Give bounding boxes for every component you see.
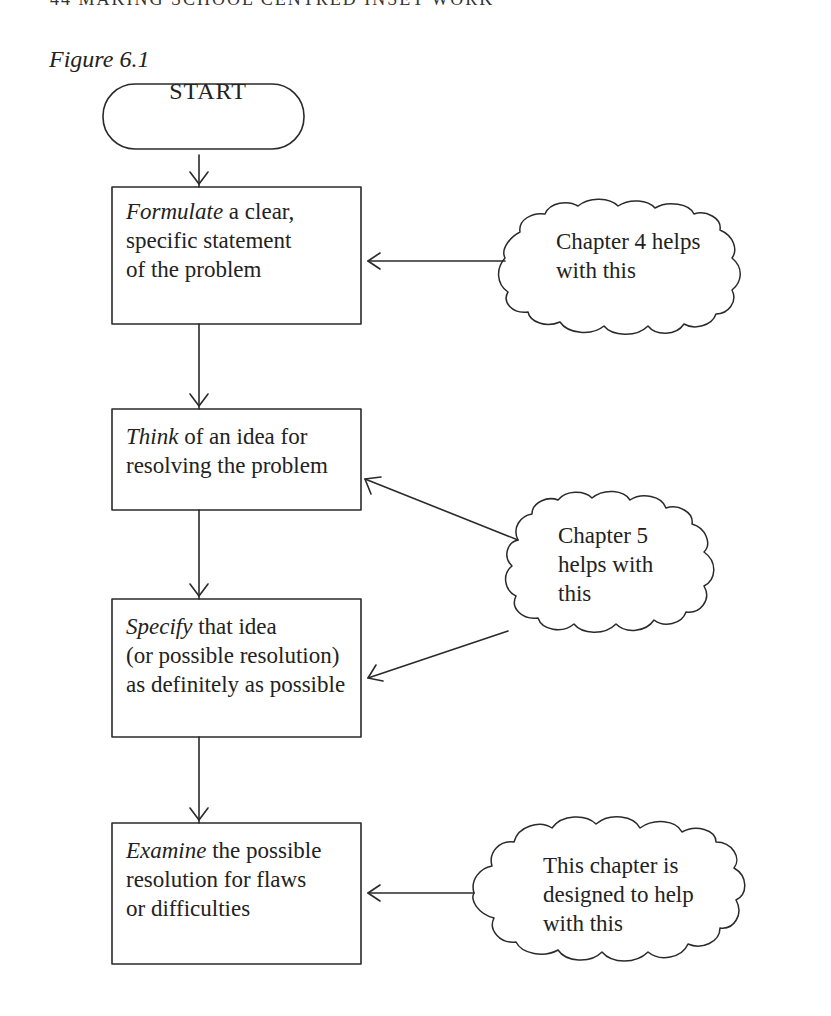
note1-arrow (368, 253, 505, 269)
flow-arrow-step2-to-step3 (190, 510, 208, 599)
step-2-text: of an idea for (178, 424, 307, 449)
step-4-emphasis: Examine (126, 838, 206, 863)
step-3-specify: Specify that idea (or possible resolutio… (126, 612, 361, 699)
note-line: with this (556, 256, 700, 285)
step-4-line: or difficulties (126, 894, 356, 923)
step-2-think: Think of an idea for resolving the probl… (126, 422, 356, 480)
note-line: Chapter 5 (558, 521, 653, 550)
step-2-emphasis: Think (126, 424, 178, 449)
step-1-formulate: Formulate a clear, specific statement of… (126, 197, 356, 284)
note-line: Chapter 4 helps (556, 227, 700, 256)
step-3-line: as definitely as possible (126, 670, 361, 699)
step-4-examine: Examine the possible resolution for flaw… (126, 836, 356, 923)
step-1-line: specific statement (126, 226, 356, 255)
flow-arrow-step3-to-step4 (190, 737, 208, 823)
step-3-text: that idea (192, 614, 276, 639)
step-3-emphasis: Specify (126, 614, 192, 639)
start-terminal: START (108, 78, 308, 105)
note-line: with this (543, 909, 694, 938)
step-3-line: (or possible resolution) (126, 641, 361, 670)
note-line: this (558, 579, 653, 608)
flowchart-graphics (0, 0, 831, 1016)
note-line: This chapter is (543, 851, 694, 880)
note2-arrow-to-step3 (368, 631, 508, 681)
note-chapter-5: Chapter 5 helps with this (558, 521, 653, 608)
note-this-chapter: This chapter is designed to help with th… (543, 851, 694, 938)
step-1-emphasis: Formulate (126, 199, 223, 224)
step-4-line: resolution for flaws (126, 865, 356, 894)
note-line: helps with (558, 550, 653, 579)
step-1-line: of the problem (126, 255, 356, 284)
note2-arrow-to-step2 (365, 477, 518, 540)
flow-arrow-start-to-step1 (190, 155, 208, 187)
flow-arrow-step1-to-step2 (190, 324, 208, 409)
note3-arrow (368, 885, 474, 901)
step-1-text: a clear, (223, 199, 294, 224)
step-2-line: resolving the problem (126, 451, 356, 480)
step-4-text: the possible (206, 838, 321, 863)
note-line: designed to help (543, 880, 694, 909)
note-chapter-4: Chapter 4 helps with this (556, 227, 700, 285)
